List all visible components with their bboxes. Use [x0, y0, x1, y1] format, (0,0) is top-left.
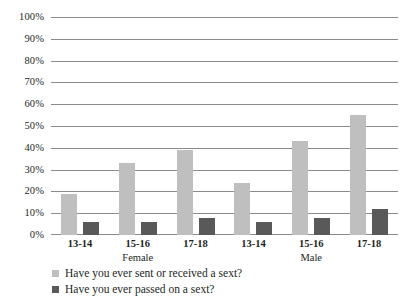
bar-groups	[51, 17, 398, 235]
bar-group	[109, 17, 167, 235]
y-axis-tick-label: 10%	[24, 208, 44, 219]
y-axis-tick-label: 30%	[24, 165, 44, 176]
bar	[292, 141, 308, 235]
legend-item-label: Have you ever passed on a sext?	[65, 283, 214, 296]
bar	[83, 222, 99, 235]
y-axis-tick-label: 70%	[24, 77, 44, 88]
bar	[372, 209, 388, 235]
legend-item[interactable]: Have you ever sent or received a sext?	[52, 266, 412, 281]
bar-chart: 100%90%80%70%60%50%40%30%20%10%0% 13-141…	[0, 0, 417, 299]
bar-group	[282, 17, 340, 235]
bar-group	[340, 17, 398, 235]
bar-group	[167, 17, 225, 235]
x-axis-category-label: 17-18	[167, 238, 225, 250]
legend-item-label: Have you ever sent or received a sext?	[65, 267, 242, 280]
bar	[350, 115, 366, 235]
bar	[314, 218, 330, 235]
chart-legend: Have you ever sent or received a sext?Ha…	[52, 266, 412, 298]
legend-swatch-icon	[52, 286, 59, 293]
legend-swatch-icon	[52, 270, 59, 277]
y-axis-tick-label: 20%	[24, 186, 44, 197]
bar-group	[51, 17, 109, 235]
y-axis-tick-label: 50%	[24, 121, 44, 132]
x-axis-category-label: 13-14	[51, 238, 109, 250]
y-axis-tick-label: 40%	[24, 143, 44, 154]
y-axis-tick-label: 90%	[24, 34, 44, 45]
x-axis-category-label: 17-18	[340, 238, 398, 250]
x-axis-category-label: 13-14	[225, 238, 283, 250]
y-axis-tick-labels: 100%90%80%70%60%50%40%30%20%10%0%	[0, 0, 48, 246]
plot-area-wrapper: 100%90%80%70%60%50%40%30%20%10%0%	[0, 0, 417, 246]
bar	[199, 218, 215, 235]
x-axis-group-label: Male	[225, 252, 399, 264]
y-axis-tick-label: 100%	[19, 12, 44, 23]
y-axis-tick-label: 0%	[30, 230, 44, 241]
bar	[141, 222, 157, 235]
bar	[61, 194, 77, 235]
x-axis-group-label: Female	[51, 252, 225, 264]
bar	[119, 163, 135, 235]
plot-area	[51, 17, 398, 235]
bar	[256, 222, 272, 235]
y-axis-tick-label: 60%	[24, 99, 44, 110]
bar-group	[225, 17, 283, 235]
bar	[234, 183, 250, 235]
y-axis-tick-label: 80%	[24, 56, 44, 67]
x-axis-category-label: 15-16	[109, 238, 167, 250]
bar	[177, 150, 193, 235]
x-axis-category-label: 15-16	[282, 238, 340, 250]
legend-item[interactable]: Have you ever passed on a sext?	[52, 282, 412, 297]
